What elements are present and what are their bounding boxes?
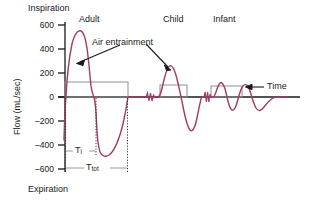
group-label-infant: Infant — [213, 15, 236, 24]
y-axis-title: Flow (mL/sec) — [12, 78, 22, 135]
time-arrow — [246, 84, 265, 89]
group-label-child: Child — [163, 15, 184, 24]
ttot-label-sub: tot — [92, 165, 99, 172]
tidal-volume-box-adult — [65, 82, 128, 97]
y-tick-label-minus400: –400 — [16, 141, 54, 150]
tidal-volume-box-child — [160, 85, 187, 97]
time-axis-label: Time — [267, 82, 287, 91]
air-entrainment-arrow-adult-head — [77, 60, 85, 66]
child-waveform — [158, 66, 202, 131]
group-label-adult: Adult — [79, 15, 100, 24]
inspiration-label: Inspiration — [28, 4, 70, 13]
ti-label-sub: i — [81, 148, 82, 155]
y-tick-label-0: 0 — [20, 93, 54, 102]
air-entrainment-arrows — [77, 44, 171, 71]
ti-label: Ti — [75, 146, 82, 156]
air-entrainment-arrow-adult-line — [80, 45, 120, 62]
ttot-label: Ttot — [86, 163, 99, 173]
air-entrainment-arrow-child-line — [146, 44, 168, 67]
y-tick-label-400: 400 — [20, 45, 54, 54]
timing-markers — [66, 98, 128, 172]
air-entrainment-label: Air entrainment — [92, 38, 153, 47]
expiration-label: Expiration — [28, 185, 68, 194]
y-tick-label-600: 600 — [20, 21, 54, 30]
y-tick-label-200: 200 — [20, 69, 54, 78]
y-tick-label-minus600: –600 — [16, 165, 54, 174]
y-tick-label-minus200: –200 — [16, 117, 54, 126]
flow-time-waveform-figure: Inspiration Expiration Flow (mL/sec) 600… — [0, 0, 309, 203]
